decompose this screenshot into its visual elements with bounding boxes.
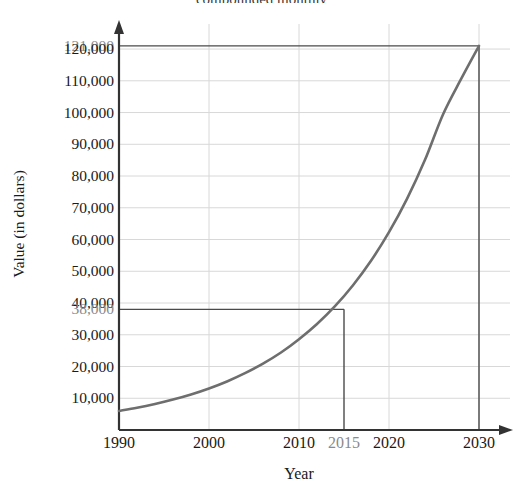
y-tick-label: 30,000 <box>30 327 114 342</box>
y-tick-label: 50,000 <box>30 263 114 278</box>
y-tick-label: 120,000 <box>30 41 114 56</box>
x-tick-label: 2000 <box>181 434 237 452</box>
y-tick-label: 60,000 <box>30 232 114 247</box>
axis-lines <box>114 20 513 435</box>
y-axis-arrowhead <box>114 20 124 34</box>
x-tick-label: 2020 <box>361 434 417 452</box>
y-axis-tick-labels: 121,000120,000110,000100,00090,00080,000… <box>26 0 114 440</box>
x-tick-label: 2030 <box>451 434 507 452</box>
y-tick-label: 80,000 <box>30 168 114 183</box>
y-tick-label: 10,000 <box>30 390 114 405</box>
x-tick-label: 1990 <box>91 434 147 452</box>
y-tick-label: 90,000 <box>30 136 114 151</box>
chart-figure: compounded monthly Value (in dollars) Ye… <box>0 0 523 494</box>
y-gridlines <box>119 49 510 398</box>
y-tick-label: 38,000 <box>30 301 114 316</box>
x-axis-label: Year <box>119 465 479 483</box>
y-tick-label: 70,000 <box>30 200 114 215</box>
y-tick-label: 20,000 <box>30 359 114 374</box>
y-tick-label: 110,000 <box>30 73 114 88</box>
y-tick-label: 100,000 <box>30 105 114 120</box>
